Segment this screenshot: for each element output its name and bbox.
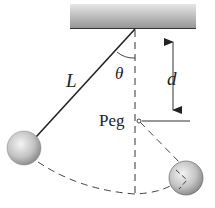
angle-label: θ [115, 64, 123, 83]
pendulum-bob-end [169, 161, 203, 195]
string-after-peg [140, 122, 183, 166]
distance-label: d [167, 68, 177, 89]
peg-label: Peg [99, 111, 125, 130]
peg [137, 119, 141, 123]
pendulum-diagram: L θ d Peg [0, 0, 215, 208]
swing-path [38, 162, 172, 194]
length-label: L [65, 70, 77, 91]
pendulum-bob-start [7, 131, 41, 165]
angle-arc [117, 52, 135, 58]
ceiling [70, 4, 196, 29]
